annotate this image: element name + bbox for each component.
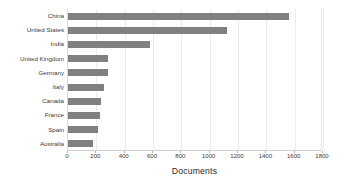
bar xyxy=(68,98,101,105)
bar xyxy=(68,13,289,20)
bar xyxy=(68,112,100,119)
plot-area xyxy=(67,9,322,151)
category-axis-labels: ChinaUnited StatesIndiaUnited KingdomGer… xyxy=(0,9,64,151)
category-label: Australia xyxy=(0,141,64,147)
category-label: China xyxy=(0,13,64,19)
bar xyxy=(68,126,98,133)
category-label: France xyxy=(0,112,64,118)
bar-row xyxy=(68,23,321,37)
x-tick-label: 1600 xyxy=(287,153,300,159)
bar-row xyxy=(68,9,321,23)
gridline xyxy=(323,9,324,150)
x-axis-title: Documents xyxy=(67,166,322,176)
bar-chart: ChinaUnited StatesIndiaUnited KingdomGer… xyxy=(0,0,350,187)
bar xyxy=(68,41,150,48)
bar xyxy=(68,55,108,62)
x-tick-label: 0 xyxy=(65,153,68,159)
bar-row xyxy=(68,123,321,137)
bar-row xyxy=(68,80,321,94)
x-tick-label: 1000 xyxy=(202,153,215,159)
bar xyxy=(68,27,227,34)
x-tick-label: 600 xyxy=(147,153,157,159)
bar-row xyxy=(68,66,321,80)
category-label: Canada xyxy=(0,98,64,104)
x-tick-label: 200 xyxy=(90,153,100,159)
x-tick-label: 800 xyxy=(175,153,185,159)
category-label: Italy xyxy=(0,84,64,90)
bar-series xyxy=(68,9,321,150)
category-label: Germany xyxy=(0,70,64,76)
x-tick-label: 1200 xyxy=(230,153,243,159)
x-tick-label: 400 xyxy=(119,153,129,159)
bar xyxy=(68,84,104,91)
x-axis-ticks: 020040060080010001200140016001800 xyxy=(67,153,322,163)
category-label: United States xyxy=(0,27,64,33)
category-label: Spain xyxy=(0,127,64,133)
category-label: United Kingdom xyxy=(0,56,64,62)
bar xyxy=(68,140,93,147)
bar-row xyxy=(68,37,321,51)
x-tick-label: 1400 xyxy=(259,153,272,159)
category-label: India xyxy=(0,41,64,47)
x-tick-label: 1800 xyxy=(315,153,328,159)
bar-row xyxy=(68,94,321,108)
bar xyxy=(68,69,108,76)
bar-row xyxy=(68,137,321,151)
bar-row xyxy=(68,108,321,122)
bar-row xyxy=(68,52,321,66)
